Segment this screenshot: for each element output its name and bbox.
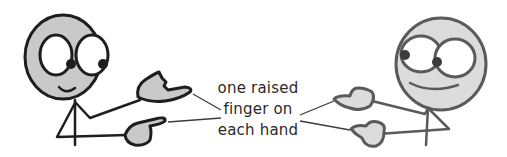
left-arm-icon (75, 100, 140, 118)
callout-line-3: each hand (205, 120, 311, 141)
left-figure (25, 15, 191, 145)
right-figure (334, 18, 486, 146)
left-pupil-icon (66, 59, 76, 69)
left-eye-icon (40, 35, 72, 75)
right-eye-icon (435, 39, 475, 77)
callout-line-1: one raised (205, 78, 311, 99)
left-upper-hand-icon (138, 72, 191, 102)
left-pupil-icon (98, 59, 108, 69)
right-upper-hand-icon (334, 88, 374, 110)
right-pupil-icon (432, 57, 442, 67)
left-eye-icon (76, 35, 108, 75)
callout-label: one raised finger on each hand (205, 78, 311, 141)
left-lower-hand-icon (125, 118, 165, 145)
callout-line-2: finger on (205, 99, 311, 120)
right-pupil-icon (400, 50, 410, 60)
right-lower-hand-icon (351, 122, 384, 147)
illustration-canvas: one raised finger on each hand (0, 0, 507, 157)
